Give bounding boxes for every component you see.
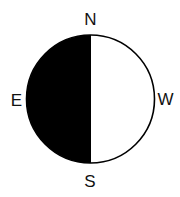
filled-left-half — [27, 35, 91, 163]
label-east: E — [11, 91, 22, 110]
moon-phase-diagram: N E W S — [0, 0, 180, 197]
label-west: W — [157, 90, 173, 109]
label-north: N — [84, 10, 96, 29]
label-south: S — [84, 172, 95, 191]
